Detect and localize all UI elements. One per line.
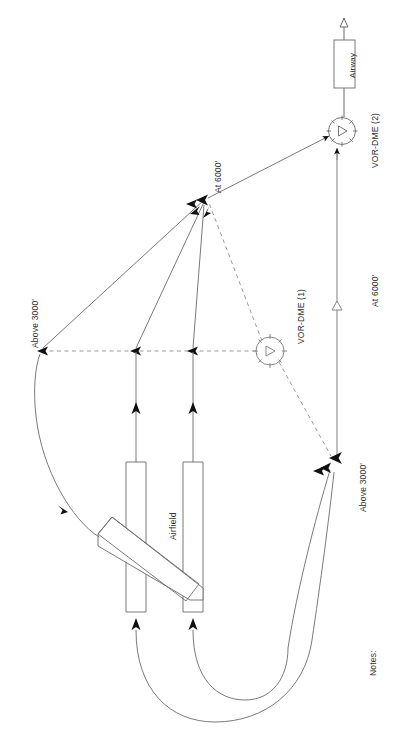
at-6000-route-label: At 6000' [370, 274, 380, 307]
outer-turn-curve [136, 630, 312, 722]
above-3000-left-label: Above 3000' [30, 299, 40, 348]
right-gate-arrow-main [329, 452, 342, 464]
western-turn-curve [35, 354, 99, 537]
departure-procedure-diagram [0, 0, 407, 732]
exit-arrow-left [132, 618, 141, 630]
track-from-left-gate [43, 200, 204, 348]
airway-label: Airway [348, 53, 357, 78]
outer-climb-leg [312, 472, 334, 640]
vor-dme-2-label: VOR-DME (2) [370, 113, 380, 168]
notes-label: Notes: [368, 650, 378, 676]
southern-turn-curves [136, 470, 334, 722]
dashed-radial-southeast [279, 362, 331, 456]
inner-turn-curve [193, 630, 288, 700]
merge-point-arrowheads-6000 [186, 195, 211, 219]
dashed-radial-lines [46, 203, 331, 456]
right-route-direction-arrow [332, 301, 342, 310]
departure-track-direction-arrows [132, 402, 198, 414]
western-curve-arrow [58, 506, 68, 515]
west-climb-curve [35, 354, 99, 537]
track-from-right-gate [193, 205, 204, 348]
right-gate-arrowheads-3000 [313, 452, 342, 476]
merge-arrow-a [196, 195, 208, 206]
exit-arrow-right [189, 618, 198, 630]
right-vertical-route [332, 148, 342, 460]
track-from-mid-gate [136, 202, 204, 348]
merge-arrow-b [186, 200, 197, 209]
chart-page: Airway VOR-DME (2) VOR-DME (1) At 6000' … [0, 0, 407, 732]
airfield-runways [98, 462, 203, 612]
vor-dme-1-symbol [253, 334, 287, 368]
runway-exit-arrows [132, 618, 198, 630]
converging-tracks-at-6000 [43, 136, 329, 348]
vor-dme-2-symbol [327, 116, 358, 147]
track-to-vor-dme-2 [208, 136, 329, 198]
runway-departure-tracks [136, 352, 193, 466]
vor-dme-1-label: VOR-DME (1) [296, 289, 306, 344]
at-6000-merge-label: At 6000' [213, 160, 223, 193]
right-gate-arrow-c [313, 466, 325, 476]
dashed-radial-northwest [209, 203, 262, 341]
west-curve-direction-arrow [58, 506, 68, 515]
airfield-label: Airfield [168, 512, 178, 540]
above-3000-right-label: Above 3000' [358, 463, 368, 512]
